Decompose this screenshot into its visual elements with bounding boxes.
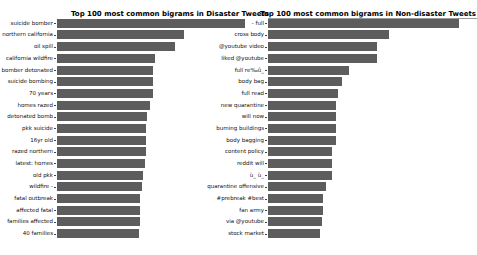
bar-label: new quarantine — [0, 102, 264, 109]
non-disaster-chart-title: Top 100 most common bigrams in Non-disas… — [260, 10, 476, 18]
y-tick-mark — [265, 23, 267, 24]
bar-label: full read — [0, 90, 264, 97]
y-tick-mark — [265, 47, 267, 48]
bar-label: content policy — [0, 148, 264, 155]
bar — [268, 182, 326, 191]
bar — [268, 42, 377, 51]
bar — [268, 112, 336, 121]
bar-label: quarantine offensive — [0, 183, 264, 190]
bar — [268, 147, 332, 156]
bar-label: body bag — [0, 78, 264, 85]
y-tick-mark — [265, 199, 267, 200]
bar — [268, 19, 459, 28]
y-tick-mark — [265, 58, 267, 59]
bar-label: reddit will — [0, 160, 264, 167]
y-tick-mark — [265, 93, 267, 94]
bar — [268, 124, 336, 133]
bar — [268, 89, 338, 98]
bar-label: will now — [0, 113, 264, 120]
bar-label: cross body — [0, 31, 264, 38]
bar-label: - full — [0, 20, 264, 27]
bar-label: burning buildings — [0, 125, 264, 132]
y-tick-mark — [265, 187, 267, 188]
bar — [268, 159, 332, 168]
bar — [268, 101, 336, 110]
bar — [268, 206, 323, 215]
bar — [268, 136, 336, 145]
bar-label: fan army — [0, 207, 264, 214]
y-tick-mark — [265, 152, 267, 153]
bar-label: ù_ ù_ — [0, 172, 264, 179]
y-tick-mark — [265, 117, 267, 118]
y-tick-mark — [265, 82, 267, 83]
bar — [268, 77, 342, 86]
bar-label: stock market — [0, 230, 264, 237]
bar — [268, 54, 377, 63]
bar-label: @youtube video — [0, 43, 264, 50]
y-tick-mark — [265, 163, 267, 164]
axes-top-spine — [268, 18, 477, 19]
y-tick-mark — [265, 128, 267, 129]
bar — [268, 194, 323, 203]
bar — [268, 66, 349, 75]
bar-label: via @youtube — [0, 218, 264, 225]
y-tick-mark — [265, 70, 267, 71]
bar — [268, 217, 322, 226]
bar-label: full re‰û_ — [0, 67, 264, 74]
bar-label: liked @youtube — [0, 55, 264, 62]
bigrams-figure: Top 100 most common bigrams in Disaster … — [0, 0, 477, 255]
y-tick-mark — [265, 35, 267, 36]
bar-label: body bagging — [0, 137, 264, 144]
bar — [268, 171, 332, 180]
bar — [268, 229, 320, 238]
y-tick-mark — [265, 234, 267, 235]
y-tick-mark — [265, 105, 267, 106]
y-tick-mark — [265, 140, 267, 141]
disaster-chart-title: Top 100 most common bigrams in Disaster … — [71, 10, 269, 18]
y-tick-mark — [265, 210, 267, 211]
bar-label: #prebreak #best — [0, 195, 264, 202]
y-tick-mark — [265, 222, 267, 223]
y-tick-mark — [265, 175, 267, 176]
bar — [268, 30, 389, 39]
